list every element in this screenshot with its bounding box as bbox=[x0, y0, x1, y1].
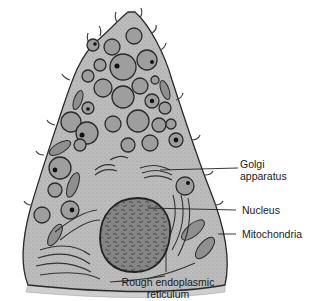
golgi-label-line1: Golgi bbox=[240, 158, 287, 170]
nucleus-shape bbox=[100, 198, 170, 272]
mitochondria-label-text: Mitochondria bbox=[242, 228, 302, 240]
mitochondria-label: Mitochondria bbox=[242, 228, 302, 240]
rer-label-line1: Rough endoplasmic bbox=[110, 276, 226, 288]
rer-label: Rough endoplasmic reticulum bbox=[110, 276, 226, 300]
nucleus-label: Nucleus bbox=[242, 204, 280, 216]
golgi-label-line2: apparatus bbox=[240, 170, 287, 182]
rer-label-line2: reticulum bbox=[110, 288, 226, 300]
golgi-label: Golgi apparatus bbox=[240, 158, 287, 182]
cell-illustration bbox=[0, 0, 315, 301]
nucleus-label-text: Nucleus bbox=[242, 204, 280, 216]
